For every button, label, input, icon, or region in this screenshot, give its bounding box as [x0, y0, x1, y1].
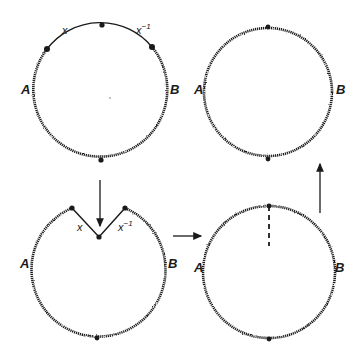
node-left [44, 46, 50, 52]
label-a: A [193, 260, 203, 275]
label-b: B [335, 260, 344, 275]
label-a: A [20, 82, 30, 97]
label-b: B [170, 82, 179, 97]
node-apex [96, 234, 101, 239]
wavy-arc-ab [33, 47, 167, 157]
label-a: A [193, 82, 203, 97]
node-bottom [266, 157, 271, 162]
label-b: B [336, 82, 345, 97]
node-top [266, 25, 271, 30]
node-top [99, 22, 104, 27]
node-top [267, 204, 272, 209]
node-right [149, 44, 155, 50]
wavy-arc-ab [32, 208, 166, 337]
label-x: x [61, 24, 68, 36]
wavy-circle [204, 28, 332, 156]
label-b: B [168, 256, 177, 271]
panel-top-left: x x−1 A B [20, 22, 179, 163]
panel-bottom-right: A B [193, 204, 344, 342]
panel-top-right: A B [193, 25, 345, 162]
node-bottom [267, 337, 272, 342]
node-left-shoulder [69, 205, 74, 210]
label-x-inverse: x−1 [117, 219, 133, 233]
node-bottom [98, 157, 103, 162]
surgery-diagram: x x−1 A B A B x x−1 A B A B [0, 0, 362, 358]
center-dot [109, 97, 110, 98]
panel-bottom-left: x x−1 A B [19, 205, 177, 340]
label-x-inverse: x−1 [135, 22, 151, 36]
label-a: A [19, 256, 29, 271]
node-right-shoulder [122, 205, 127, 210]
node-bottom [95, 336, 100, 341]
label-x: x [76, 221, 83, 233]
